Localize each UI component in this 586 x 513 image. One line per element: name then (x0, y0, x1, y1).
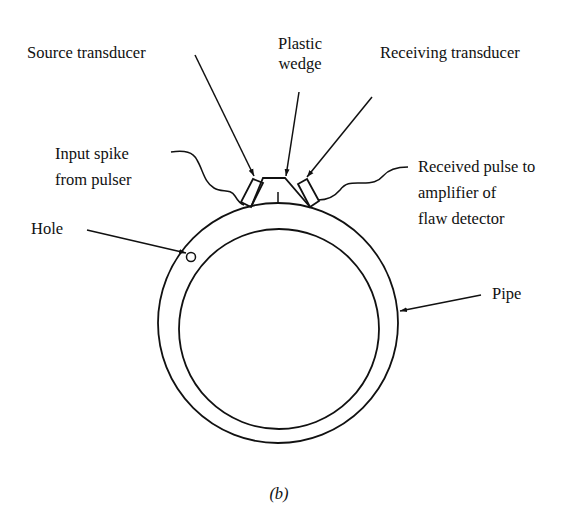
pipe-leader (400, 295, 481, 311)
source-transducer-leader (195, 55, 254, 176)
input-spike-label-line2: from pulser (55, 167, 132, 193)
received-pulse-label: Received pulse to amplifier of flaw dete… (418, 154, 535, 232)
pipe-label: Pipe (492, 284, 521, 304)
receiving-transducer (298, 179, 319, 207)
hole-label: Hole (31, 219, 63, 239)
input-spike-label-line1: Input spike (55, 141, 132, 167)
received-pulse-label-line3: flaw detector (418, 206, 535, 232)
plastic-wedge-leader (286, 92, 299, 176)
received-pulse-cable (318, 167, 408, 200)
diagram-canvas: Plastic wedge Source transducer Receivin… (0, 0, 586, 513)
plastic-wedge-label-line2: wedge (268, 54, 332, 74)
plastic-wedge-label-line1: Plastic (268, 34, 332, 54)
received-pulse-label-line1: Received pulse to (418, 154, 535, 180)
pipe-inner-wall (179, 229, 379, 429)
hole-leader (87, 230, 186, 253)
receiving-transducer-leader (307, 97, 372, 177)
input-spike-cable (171, 151, 244, 205)
plastic-wedge-label: Plastic wedge (268, 34, 332, 74)
pipe-outer-wall (158, 203, 398, 443)
received-pulse-label-line2: amplifier of (418, 180, 535, 206)
input-spike-label: Input spike from pulser (55, 141, 132, 193)
pipe-inspection-drawing (0, 0, 586, 513)
source-transducer-label: Source transducer (27, 43, 146, 63)
figure-caption: (b) (264, 484, 294, 504)
hole-icon (187, 253, 196, 262)
receiving-transducer-label: Receiving transducer (380, 43, 520, 63)
